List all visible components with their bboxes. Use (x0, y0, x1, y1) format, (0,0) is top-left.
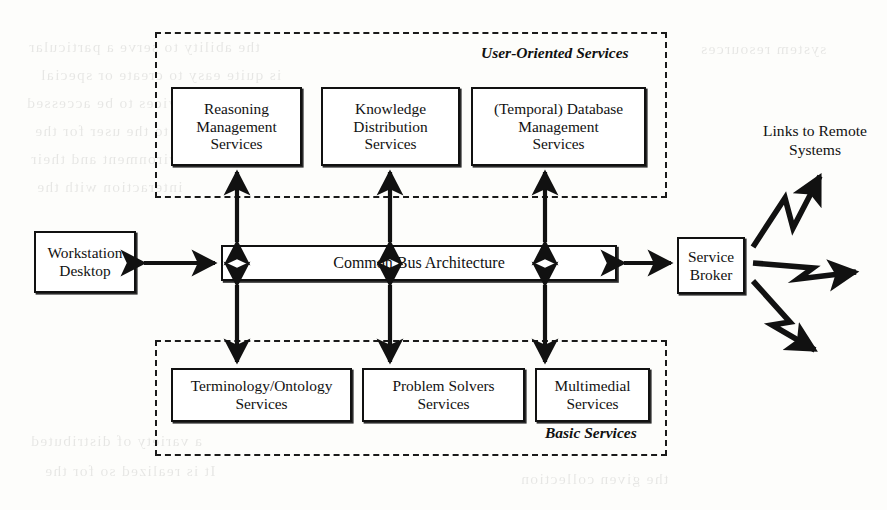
node-service-broker[interactable]: Service Broker (677, 237, 745, 294)
region-label-basic-services: Basic Services (545, 424, 637, 442)
node-line: Workstation (44, 244, 127, 262)
diagram-canvas: the ability to serve a particular is qui… (0, 0, 887, 510)
scan-ghost-text: It is realized so for the (44, 462, 216, 480)
scan-ghost-text: the given collection (520, 470, 668, 488)
node-temporal-database-management-services[interactable]: (Temporal) Database Management Services (471, 87, 646, 166)
node-reasoning-management-services[interactable]: Reasoning Management Services (171, 87, 302, 166)
node-line: Distribution (349, 118, 431, 136)
node-line: Management (490, 118, 627, 136)
connector-broker-remote-lower (753, 281, 815, 350)
node-line: Terminology/Ontology (187, 377, 337, 395)
node-line: Desktop (44, 262, 127, 280)
node-line: Common Bus Architecture (329, 254, 509, 273)
node-terminology-ontology-services[interactable]: Terminology/Ontology Services (171, 368, 352, 422)
node-line: Reasoning (192, 100, 280, 118)
node-line: Services (349, 135, 431, 153)
node-line: Multimedial (550, 377, 634, 395)
connector-broker-remote-middle (753, 263, 856, 279)
node-workstation-desktop[interactable]: Workstation Desktop (34, 231, 136, 293)
node-line: Services (192, 135, 280, 153)
scan-ghost-text: system resources (700, 40, 826, 58)
node-line: Services (388, 395, 498, 413)
node-line: Management (192, 118, 280, 136)
node-line: Services (490, 135, 627, 153)
node-line: Services (187, 395, 337, 413)
node-knowledge-distribution-services[interactable]: Knowledge Distribution Services (321, 87, 460, 166)
node-line: Services (550, 395, 634, 413)
node-multimedial-services[interactable]: Multimedial Services (535, 368, 650, 422)
node-line: Broker (684, 266, 738, 284)
node-common-bus-architecture[interactable]: Common Bus Architecture (221, 245, 617, 281)
label-links-to-remote-systems: Links to Remote Systems (744, 122, 886, 159)
label-line: Systems (744, 141, 886, 160)
node-line: Service (684, 248, 738, 266)
node-line: (Temporal) Database (490, 100, 627, 118)
node-line: Knowledge (349, 100, 431, 118)
region-label-user-oriented-services: User-Oriented Services (481, 44, 629, 62)
connector-broker-remote-upper (753, 176, 820, 247)
node-line: Problem Solvers (388, 377, 498, 395)
label-line: Links to Remote (744, 122, 886, 141)
node-problem-solvers-services[interactable]: Problem Solvers Services (362, 368, 525, 422)
